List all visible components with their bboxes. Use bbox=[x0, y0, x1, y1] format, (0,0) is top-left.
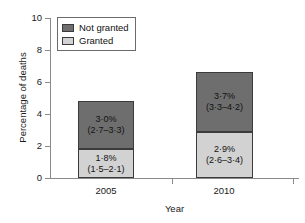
y-axis-title: Percentage of deaths bbox=[17, 23, 28, 173]
bar-2005-granted: 1·8% (1·5–2·1) bbox=[78, 149, 134, 178]
bar-2010-granted-value: 2·9% bbox=[214, 144, 235, 155]
y-tick-mark-6 bbox=[45, 82, 50, 83]
x-axis-title: Year bbox=[50, 203, 299, 214]
x-tick-mark-mid bbox=[172, 179, 173, 184]
y-tick-mark-4 bbox=[45, 114, 50, 115]
bar-2010-not-granted-ci: (3·3–4·2) bbox=[206, 102, 243, 113]
legend-swatch-granted-icon bbox=[62, 37, 74, 45]
x-tick-label-2005: 2005 bbox=[76, 186, 136, 196]
bar-2010-not-granted: 3·7% (3·3–4·2) bbox=[196, 72, 253, 132]
chart-figure: 10 8 6 4 2 0 Percentage of deaths 2005 2… bbox=[0, 0, 305, 223]
plot-area: 10 8 6 4 2 0 Percentage of deaths 2005 2… bbox=[0, 0, 305, 223]
y-tick-mark-10 bbox=[45, 18, 50, 19]
legend-item-not-granted: Not granted bbox=[62, 21, 129, 34]
x-tick-label-2010: 2010 bbox=[194, 186, 254, 196]
legend-label-granted: Granted bbox=[79, 35, 113, 46]
bar-2010-granted-ci: (2·6–3·4) bbox=[206, 155, 243, 166]
bar-2005-not-granted-ci: (2·7–3·3) bbox=[87, 125, 124, 136]
x-tick-mark-end bbox=[293, 179, 294, 184]
y-tick-mark-8 bbox=[45, 50, 50, 51]
legend-swatch-not-granted-icon bbox=[62, 24, 74, 32]
legend-label-not-granted: Not granted bbox=[79, 22, 129, 33]
bar-2005-granted-ci: (1·5–2·1) bbox=[87, 164, 124, 175]
x-axis-line bbox=[50, 178, 299, 179]
y-axis-line bbox=[50, 18, 51, 179]
chart-legend: Not granted Granted bbox=[57, 17, 136, 51]
y-tick-label-10: 10 bbox=[2, 13, 42, 23]
bar-2005-granted-value: 1·8% bbox=[95, 153, 116, 164]
legend-item-granted: Granted bbox=[62, 34, 129, 47]
bar-2010-not-granted-value: 3·7% bbox=[214, 91, 235, 102]
bar-2010-granted: 2·9% (2·6–3·4) bbox=[196, 132, 253, 178]
y-tick-label-0: 0 bbox=[2, 173, 42, 183]
bar-2005-not-granted-value: 3·0% bbox=[95, 114, 116, 125]
y-tick-mark-2 bbox=[45, 146, 50, 147]
bar-2005-not-granted: 3·0% (2·7–3·3) bbox=[78, 101, 134, 149]
y-tick-mark-0 bbox=[45, 178, 50, 179]
